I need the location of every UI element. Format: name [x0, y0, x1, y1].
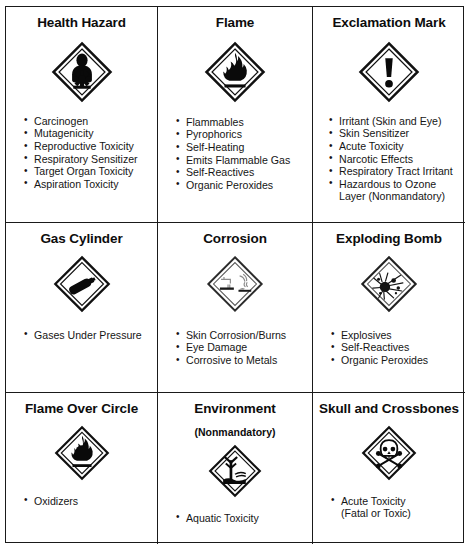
- list-item: Carcinogen: [24, 115, 138, 128]
- list-item: Eye Damage: [176, 341, 286, 354]
- list-item: Skin Corrosion/Burns: [176, 329, 286, 342]
- hazard-list: Gases Under Pressure: [24, 329, 142, 342]
- list-item: Narcotic Effects: [329, 153, 453, 166]
- flame-pictogram: [204, 41, 266, 103]
- cell-title: Exclamation Mark: [332, 16, 445, 31]
- hazard-list: Irritant (Skin and Eye) Skin Sensitizer …: [329, 115, 453, 203]
- list-item: Skin Sensitizer: [329, 127, 453, 140]
- hazard-list: Skin Corrosion/Burns Eye Damage Corrosiv…: [176, 329, 286, 367]
- list-item: Acute Toxicity (Fatal or Toxic): [331, 495, 411, 520]
- list-item: Gases Under Pressure: [24, 329, 142, 342]
- list-item: Self-Heating: [176, 141, 290, 154]
- pictogram-cell-skull-and-crossbones[interactable]: Skull and Crossbones: [313, 393, 465, 544]
- list-item: Self-Reactives: [176, 166, 290, 179]
- pictogram-image-wrap: [319, 255, 459, 313]
- list-item: Organic Peroxides: [176, 179, 290, 192]
- cell-title: Corrosion: [203, 232, 267, 247]
- list-item: Corrosive to Metals: [176, 354, 286, 367]
- ghs-pictogram-sheet: Health Hazard: [0, 0, 471, 555]
- pictogram-cell-environment[interactable]: Environment (Nonmandatory): [158, 393, 313, 544]
- list-item: Mutagenicity: [24, 127, 138, 140]
- hazard-list: Flammables Pyrophorics Self-Heating Emit…: [176, 116, 290, 192]
- pictogram-image-wrap: [12, 41, 151, 103]
- pictogram-image-wrap: [12, 425, 151, 481]
- list-item: Pyrophorics: [176, 128, 290, 141]
- list-item: Oxidizers: [24, 495, 78, 508]
- flame-over-circle-pictogram: [54, 425, 110, 481]
- pictogram-cell-corrosion[interactable]: Corrosion: [158, 223, 313, 393]
- list-item: Hazardous to Ozone Layer (Nonmandatory): [329, 178, 453, 203]
- exclamation-mark-pictogram: [358, 41, 420, 103]
- pictogram-cell-gas-cylinder[interactable]: Gas Cylinder Gases Under Pressure: [6, 223, 158, 393]
- environment-pictogram: [208, 444, 262, 498]
- list-item: Organic Peroxides: [331, 354, 428, 367]
- pictogram-cell-exploding-bomb[interactable]: Exploding Bomb: [313, 223, 465, 393]
- cell-title: Environment: [194, 402, 275, 417]
- hazard-list: Aquatic Toxicity: [176, 512, 259, 525]
- pictogram-cell-exclamation-mark[interactable]: Exclamation Mark Irritant (Skin and Eye)…: [313, 7, 465, 223]
- hazard-list: Oxidizers: [24, 495, 78, 508]
- list-item: Flammables: [176, 116, 290, 129]
- cell-subtitle: (Nonmandatory): [194, 426, 275, 438]
- skull-and-crossbones-pictogram: [361, 425, 417, 481]
- hazard-list: Acute Toxicity (Fatal or Toxic): [331, 495, 411, 520]
- pictogram-cell-health-hazard[interactable]: Health Hazard: [6, 7, 158, 223]
- cell-title: Gas Cylinder: [40, 232, 122, 247]
- list-item: Emits Flammable Gas: [176, 154, 290, 167]
- pictogram-image-wrap: [319, 41, 459, 103]
- list-item: Irritant (Skin and Eye): [329, 115, 453, 128]
- list-item: Aquatic Toxicity: [176, 512, 259, 525]
- cell-title: Skull and Crossbones: [319, 402, 459, 417]
- hazard-list: Explosives Self-Reactives Organic Peroxi…: [331, 329, 428, 367]
- list-item: Reproductive Toxicity: [24, 140, 138, 153]
- pictogram-image-wrap: [319, 425, 459, 481]
- pictogram-cell-flame-over-circle[interactable]: Flame Over Circle Oxidizers: [6, 393, 158, 544]
- list-item: Self-Reactives: [331, 341, 428, 354]
- list-item: Respiratory Tract Irritant: [329, 165, 453, 178]
- pictogram-image-wrap: [164, 444, 306, 498]
- pictogram-image-wrap: [12, 255, 151, 313]
- pictogram-image-wrap: [164, 255, 306, 313]
- corrosion-pictogram: [206, 255, 264, 313]
- list-item: Explosives: [331, 329, 428, 342]
- cell-title: Flame: [216, 16, 255, 31]
- list-item: Respiratory Sensitizer: [24, 153, 138, 166]
- list-item: Acute Toxicity: [329, 140, 453, 153]
- pictogram-cell-flame[interactable]: Flame Flammables Pyrophorics Self-Heatin…: [158, 7, 313, 223]
- pictogram-grid: Health Hazard: [5, 6, 464, 543]
- list-item: Target Organ Toxicity: [24, 165, 138, 178]
- health-hazard-pictogram: [51, 41, 113, 103]
- hazard-list: Carcinogen Mutagenicity Reproductive Tox…: [24, 115, 138, 191]
- cell-title: Flame Over Circle: [25, 402, 138, 417]
- list-item: Aspiration Toxicity: [24, 178, 138, 191]
- cell-title: Exploding Bomb: [336, 232, 442, 247]
- cell-title: Health Hazard: [37, 16, 126, 31]
- exploding-bomb-pictogram: [360, 255, 418, 313]
- gas-cylinder-pictogram: [53, 255, 111, 313]
- pictogram-image-wrap: [164, 41, 306, 103]
